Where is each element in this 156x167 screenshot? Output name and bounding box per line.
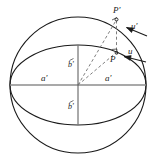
label-p: P xyxy=(110,55,116,64)
label-u: u xyxy=(128,47,133,56)
velocity-arrow-u xyxy=(124,56,146,62)
sphere-ellipse-figure: P' u' P u a' a' b' b' xyxy=(0,0,156,167)
label-b-prime-bottom: b' xyxy=(68,103,74,111)
label-a-prime-right: a' xyxy=(105,74,111,83)
label-u-prime: u' xyxy=(131,22,137,31)
label-a-prime-left: a' xyxy=(41,74,47,83)
label-p-prime: P' xyxy=(113,6,120,15)
label-b-prime-top: b' xyxy=(68,61,74,69)
